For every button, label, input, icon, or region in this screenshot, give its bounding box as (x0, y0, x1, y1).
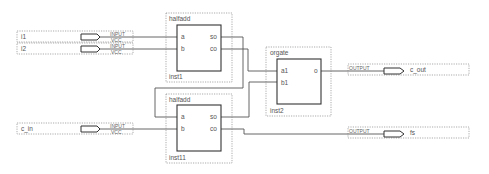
input-pin-i2[interactable]: i2 INPUT VCC (17, 43, 133, 55)
block-halfadd-inst1[interactable]: halfadd a b so co inst1 (166, 13, 232, 82)
output-pin-c-out[interactable]: OUTPUT c_out (348, 64, 469, 75)
output-pin-symbol-icon (384, 68, 404, 74)
input-pin-default: VCC (111, 129, 122, 135)
output-pin-name: fs (410, 129, 416, 136)
output-pin-fs[interactable]: OUTPUT fs (348, 127, 469, 138)
wire-inst1-co-to-orgate-a1 (221, 49, 277, 71)
output-pin-name: c_out (410, 66, 426, 74)
port-so: so (210, 113, 217, 120)
wire-inst11-so-to-orgate-b1 (221, 82, 277, 117)
instance-label: inst2 (270, 107, 284, 114)
block-type-label: halfadd (169, 96, 191, 103)
schematic-canvas: i1 INPUT VCC i2 INPUT VCC c_in INPUT VCC… (0, 0, 489, 174)
wires (100, 37, 384, 134)
input-pin-name: i2 (21, 45, 26, 52)
port-co: co (210, 125, 217, 132)
input-pin-symbol-icon (81, 126, 100, 132)
input-pin-i1[interactable]: i1 INPUT VCC (17, 31, 133, 43)
port-a: a (181, 33, 185, 40)
port-b1: b1 (281, 79, 289, 86)
port-b: b (181, 125, 185, 132)
port-so: so (210, 33, 217, 40)
input-pin-name: i1 (21, 33, 26, 40)
port-co: co (210, 45, 217, 52)
output-pin-type: OUTPUT (349, 128, 370, 134)
input-pin-c-in[interactable]: c_in INPUT VCC (17, 123, 133, 135)
block-halfadd-inst11[interactable]: halfadd a b so co inst11 (166, 94, 232, 163)
block-type-label: halfadd (169, 15, 191, 22)
block-type-label: orgate (270, 49, 289, 57)
block-orgate-inst2[interactable]: orgate a1 b1 o inst2 (266, 47, 331, 116)
port-a: a (181, 113, 185, 120)
port-b: b (181, 45, 185, 52)
input-pin-default: VCC (111, 49, 122, 55)
output-pin-symbol-icon (384, 131, 404, 137)
input-pin-name: c_in (21, 125, 33, 133)
port-a1: a1 (281, 67, 289, 74)
output-pin-type: OUTPUT (349, 65, 370, 71)
port-o: o (314, 67, 318, 74)
instance-label: inst1 (169, 73, 183, 80)
input-pin-symbol-icon (81, 34, 100, 40)
input-pin-symbol-icon (81, 46, 100, 52)
instance-label: inst11 (169, 154, 186, 161)
